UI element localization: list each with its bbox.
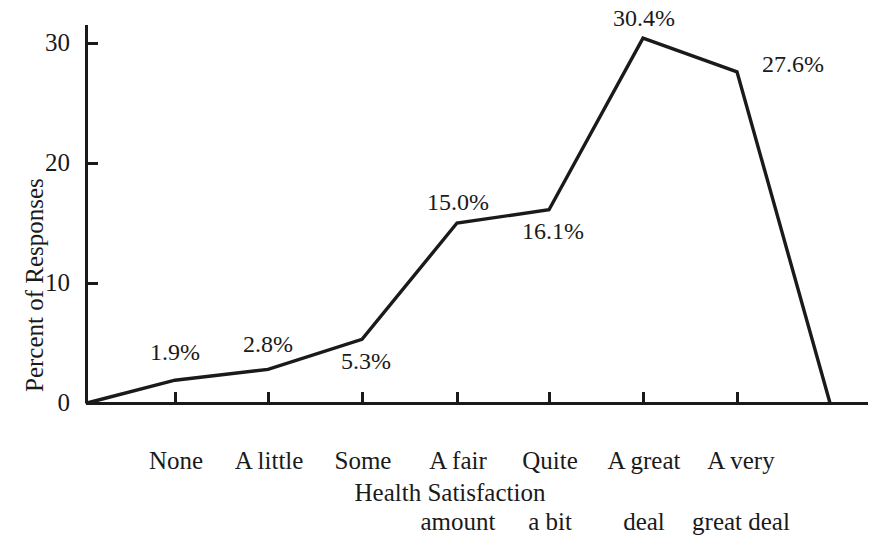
x-tick-text-a-very-great-deal-line1: A very <box>677 446 805 477</box>
data-label-some: 5.3% <box>326 349 406 374</box>
y-tick-label-30: 30 <box>24 30 70 56</box>
data-label-quite-a-bit: 16.1% <box>505 219 601 244</box>
data-label-a-very-great-deal: 27.6% <box>745 52 841 77</box>
data-label-a-great-deal: 30.4% <box>596 6 692 31</box>
data-label-a-little: 2.8% <box>228 332 308 357</box>
y-tick-label-0: 0 <box>24 390 70 416</box>
data-label-none: 1.9% <box>135 340 215 365</box>
x-tick-marks <box>176 392 738 403</box>
data-label-a-fair-amount: 15.0% <box>410 190 506 215</box>
y-axis-title: Percent of Responses <box>22 178 48 392</box>
x-axis-title: Health Satisfaction <box>285 480 615 506</box>
y-tick-label-20: 20 <box>24 150 70 176</box>
x-tick-text-a-very-great-deal-line2: great deal <box>677 507 805 538</box>
x-tick-text-a-very-great-deal: A very great deal <box>677 415 805 539</box>
